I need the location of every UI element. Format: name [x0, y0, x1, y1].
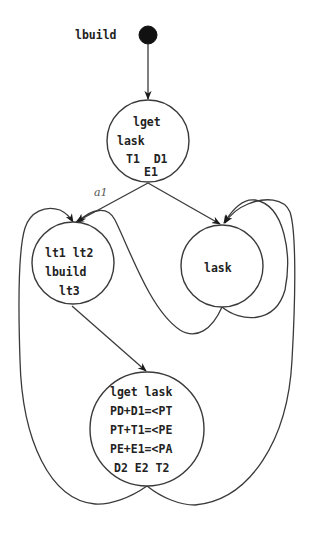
s4-line-3: PT+T1=<PE: [110, 423, 172, 437]
s1-line-2: lask: [117, 134, 145, 148]
s1-line-3: T1 D1: [126, 152, 168, 166]
s4-line-4: PE+E1=<PA: [110, 442, 172, 456]
initial-state-dot[interactable]: [139, 26, 157, 44]
s4-line-2: PD+D1=<PT: [110, 404, 172, 418]
s4-line-1: lget lask: [110, 385, 172, 399]
s2-line-2: lbuild: [45, 265, 87, 279]
edge-label-a1: a1: [94, 186, 108, 199]
state-node-s1[interactable]: lget lask T1 D1 E1: [107, 100, 189, 182]
state-diagram: lbuild a1 lget lask T1 D1 E1 lt1 lt2 lbu…: [0, 0, 311, 533]
state-node-s3[interactable]: lask: [181, 225, 263, 307]
s1-line-1: lget: [133, 115, 161, 129]
state-node-s2[interactable]: lt1 lt2 lbuild lt3: [32, 222, 114, 304]
edge-s1-to-s3[interactable]: [148, 183, 220, 224]
initial-state-label: lbuild: [75, 28, 117, 42]
state-node-s4[interactable]: lget lask PD+D1=<PT PT+T1=<PE PE+E1=<PA …: [90, 372, 204, 486]
s4-line-5: D2 E2 T2: [114, 461, 169, 475]
edge-s2-to-s4[interactable]: [72, 306, 146, 371]
s1-line-4: E1: [144, 165, 158, 179]
s2-line-1: lt1 lt2: [45, 246, 93, 260]
s2-line-3: lt3: [59, 284, 80, 298]
s3-line-1: lask: [204, 261, 232, 275]
